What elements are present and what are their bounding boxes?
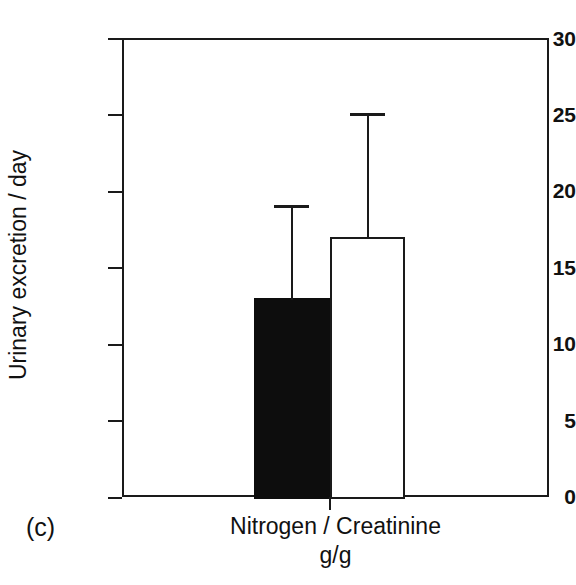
panel-label: (c) (26, 513, 55, 542)
y-tick-mark-5 (108, 420, 122, 422)
bar-open (330, 237, 405, 499)
bar-filled (254, 298, 330, 499)
x-tick-mark (329, 497, 331, 510)
error-bar-cap-open (350, 113, 385, 116)
y-tick-mark-0 (108, 497, 122, 499)
x-axis-title-units: g/g (122, 541, 549, 569)
y-tick-mark-15 (108, 267, 122, 269)
error-bar-stem-open (367, 114, 369, 239)
plot-area (122, 38, 549, 497)
error-bar-cap-filled (274, 205, 309, 208)
y-axis-title: Urinary excretion / day (1, 36, 35, 495)
chart-figure: Urinary excretion / day 30 25 20 15 10 5… (0, 0, 576, 585)
x-axis-title-line1: Nitrogen / Creatinine (122, 512, 549, 541)
y-tick-mark-25 (108, 114, 122, 116)
y-tick-mark-20 (108, 191, 122, 193)
y-tick-mark-10 (108, 344, 122, 346)
x-axis-title: Nitrogen / Creatinine g/g (122, 512, 549, 569)
y-tick-mark-30 (108, 38, 122, 40)
error-bar-stem-filled (291, 206, 293, 300)
